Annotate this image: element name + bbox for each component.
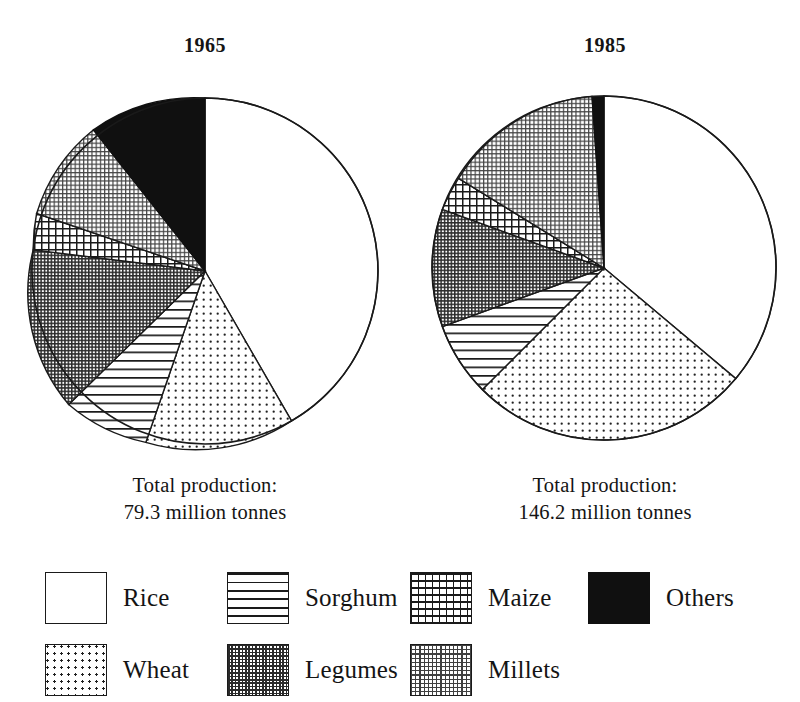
- legend-label-millets: Millets: [488, 656, 560, 684]
- legend-swatch-rice-icon: [45, 572, 107, 624]
- legend-item-rice: Rice: [45, 572, 170, 624]
- legend-label-wheat: Wheat: [123, 656, 189, 684]
- legend-item-maize: Maize: [410, 572, 551, 624]
- legend-swatch-legumes-icon: [227, 644, 289, 696]
- legend-swatch-maize-icon: [410, 572, 472, 624]
- caption-1985-line1: Total production:: [533, 474, 678, 496]
- legend-swatch-sorghum-icon: [227, 572, 289, 624]
- legend-item-sorghum: Sorghum: [227, 572, 398, 624]
- legend-label-maize: Maize: [488, 584, 551, 612]
- legend-item-millets: Millets: [410, 644, 560, 696]
- legend-swatch-millets-icon: [410, 644, 472, 696]
- pie-chart-1985: [420, 86, 790, 456]
- caption-1985: Total production: 146.2 million tonnes: [455, 472, 755, 526]
- caption-1965: Total production: 79.3 million tonnes: [55, 472, 355, 526]
- legend-swatch-wheat-icon: [45, 644, 107, 696]
- pie-chart-1965: [20, 88, 390, 458]
- legend-item-wheat: Wheat: [45, 644, 189, 696]
- legend-item-others: Others: [588, 572, 734, 624]
- legend-label-others: Others: [666, 584, 734, 612]
- legend: Rice Sorghum Maize Others Wheat Legumes …: [0, 556, 800, 686]
- caption-1965-line1: Total production:: [133, 474, 278, 496]
- caption-1965-line2: 79.3 million tonnes: [55, 499, 355, 526]
- chart-title-1965: 1965: [120, 34, 290, 57]
- pie-svg-1985: [420, 86, 790, 456]
- legend-label-sorghum: Sorghum: [305, 584, 398, 612]
- legend-swatch-others-icon: [588, 572, 650, 624]
- chart-title-1985: 1985: [520, 34, 690, 57]
- legend-label-rice: Rice: [123, 584, 170, 612]
- pie-svg-1965: [20, 88, 390, 458]
- legend-item-legumes: Legumes: [227, 644, 398, 696]
- legend-label-legumes: Legumes: [305, 656, 398, 684]
- caption-1985-line2: 146.2 million tonnes: [455, 499, 755, 526]
- pie-chart-figure: 1965 1985: [0, 0, 800, 702]
